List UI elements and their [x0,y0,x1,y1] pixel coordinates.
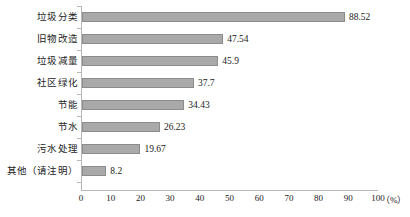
bar [82,56,218,66]
x-axis-tick-labels: 0102030405060708090100 （%） [0,191,410,211]
bar-track: 47.54 [82,28,379,50]
y-axis-tick [77,116,81,117]
bar-row: 旧物改造47.54 [0,28,410,50]
bar-row: 社区绿化37.7 [0,72,410,94]
y-axis-tick [77,72,81,73]
y-axis-tick [77,6,81,7]
bar-row: 其他（请注明）8.2 [0,160,410,182]
bar-track: 19.67 [82,138,379,160]
bar-value-label: 19.67 [140,138,165,160]
bar-value-label: 47.54 [223,28,248,50]
bar-track: 37.7 [82,72,379,94]
y-axis-tick [77,94,81,95]
category-label: 节能 [58,94,78,116]
bar-row: 节水26.23 [0,116,410,138]
category-label: 其他（请注明） [7,160,78,182]
bar-row: 垃圾减量45.9 [0,50,410,72]
bar [82,144,140,154]
bar-track: 88.52 [82,6,379,28]
category-label: 社区绿化 [37,72,78,94]
x-tick-label: 10 [106,193,115,203]
bar [82,100,184,110]
bar-row: 垃圾分类88.52 [0,6,410,28]
x-tick-label: 20 [136,193,145,203]
plot-area: 垃圾分类88.52旧物改造47.54垃圾减量45.9社区绿化37.7节能34.4… [0,0,410,217]
bar-value-label: 45.9 [218,50,239,72]
bar-row: 污水处理19.67 [0,138,410,160]
category-label: 节水 [58,116,78,138]
bar [82,78,194,88]
bar [82,12,345,22]
bar-track: 8.2 [82,160,379,182]
category-label: 垃圾减量 [37,50,78,72]
bar-value-label: 34.43 [184,94,209,116]
bar [82,122,160,132]
x-tick-label: 70 [284,193,293,203]
x-tick-label: 40 [195,193,204,203]
x-tick-label: 30 [166,193,175,203]
bar-track: 34.43 [82,94,379,116]
bar [82,166,106,176]
bar-value-label: 88.52 [345,6,370,28]
y-axis-tick [77,50,81,51]
x-tick-label: 0 [79,193,84,203]
horizontal-bar-chart: 垃圾分类88.52旧物改造47.54垃圾减量45.9社区绿化37.7节能34.4… [0,0,410,217]
bar-track: 26.23 [82,116,379,138]
bar-value-label: 26.23 [160,116,185,138]
x-tick-label: 80 [314,193,323,203]
bar-value-label: 8.2 [106,160,122,182]
x-tick-label: 60 [255,193,264,203]
category-label: 旧物改造 [37,28,78,50]
category-label: 污水处理 [37,138,78,160]
bar [82,34,223,44]
bar-track: 45.9 [82,50,379,72]
y-axis-tick [77,182,81,183]
x-tick-label: 50 [225,193,234,203]
y-axis-tick [77,28,81,29]
category-label: 垃圾分类 [37,6,78,28]
bar-row: 节能34.43 [0,94,410,116]
y-axis-tick [77,138,81,139]
x-axis-unit-label: （%） [381,193,407,206]
y-axis-tick [77,160,81,161]
x-tick-label: 90 [344,193,353,203]
bar-value-label: 37.7 [194,72,215,94]
